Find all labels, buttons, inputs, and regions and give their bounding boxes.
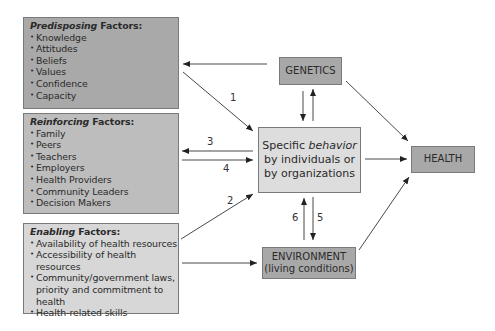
arrow-label-4: 4	[223, 163, 229, 174]
health-label: HEALTH	[424, 153, 463, 166]
arrow-label-5: 5	[317, 212, 323, 223]
list-item: Health-related skills	[30, 307, 178, 319]
list-item: Values	[30, 66, 178, 78]
list-item: Decision Makers	[30, 197, 178, 209]
environment-text: ENVIRONMENT (living conditions)	[264, 251, 353, 275]
list-item: Attitudes	[30, 43, 178, 55]
enabling-factors-box: Enabling Factors: Availability of health…	[23, 223, 179, 314]
list-item: Peers	[30, 139, 178, 151]
enabling-list: Availability of health resources Accessi…	[30, 238, 178, 319]
arrow-label-2: 2	[227, 195, 233, 206]
list-item: Knowledge	[30, 32, 178, 44]
arrow-2-enabling-to-behavior	[181, 194, 253, 239]
reinforcing-title: Reinforcing Factors:	[30, 116, 178, 128]
arrow-label-1: 1	[230, 92, 236, 103]
arrow-environment-to-health	[359, 177, 409, 250]
predisposing-list: Knowledge Attitudes Beliefs Values Confi…	[30, 32, 178, 102]
specific-behavior-box: Specific behavior by individuals or by o…	[258, 127, 361, 193]
environment-box: ENVIRONMENT (living conditions)	[262, 247, 356, 279]
list-item: Employers	[30, 162, 178, 174]
list-item: Capacity	[30, 90, 178, 102]
behavior-text: Specific behavior by individuals or by o…	[262, 139, 357, 181]
list-item: Accessibility of health resources	[30, 249, 178, 272]
list-item: Health Providers	[30, 174, 178, 186]
reinforcing-factors-box: Reinforcing Factors: Family Peers Teache…	[23, 113, 179, 214]
list-item: Confidence	[30, 78, 178, 90]
list-item: Family	[30, 128, 178, 140]
predisposing-factors-box: Predisposing Factors: Knowledge Attitude…	[23, 17, 179, 109]
enabling-title: Enabling Factors:	[30, 226, 178, 238]
arrow-label-6: 6	[292, 212, 298, 223]
list-item: Community Leaders	[30, 186, 178, 198]
predisposing-title: Predisposing Factors:	[30, 20, 178, 32]
arrow-1-predisposing-to-behavior	[183, 72, 253, 131]
list-item: Community/government laws, priority and …	[30, 272, 178, 307]
genetics-box: GENETICS	[279, 57, 342, 85]
list-item: Availability of health resources	[30, 238, 178, 250]
reinforcing-list: Family Peers Teachers Employers Health P…	[30, 128, 178, 209]
list-item: Teachers	[30, 151, 178, 163]
health-box: HEALTH	[411, 146, 475, 173]
genetics-label: GENETICS	[285, 65, 335, 78]
list-item: Beliefs	[30, 55, 178, 67]
arrow-label-3: 3	[207, 136, 213, 147]
